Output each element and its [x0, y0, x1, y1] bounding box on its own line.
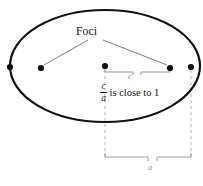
eccentricity-expression: c a is close to 1 — [100, 82, 159, 103]
ellipse-center-point — [102, 63, 108, 69]
eccentricity-text: is close to 1 — [110, 87, 160, 98]
left-focus-point — [38, 65, 44, 71]
foci-label: Foci — [76, 25, 97, 37]
leader-line-to-right-focus — [103, 40, 167, 65]
left-vertex-point — [7, 64, 13, 70]
leader-line-to-left-focus — [44, 40, 88, 65]
ellipse-eccentricity-figure: Foci c a c a is close to 1 — [0, 0, 203, 186]
c-measure-bracket — [105, 69, 170, 75]
c-length-label: c — [128, 72, 132, 81]
a-measure-bracket — [105, 153, 191, 161]
right-focus-point — [167, 65, 173, 71]
c-over-a-fraction: c a — [100, 82, 107, 103]
fraction-numerator: c — [100, 82, 106, 92]
right-vertex-point — [188, 64, 194, 70]
fraction-denominator: a — [100, 93, 107, 103]
a-length-label: a — [148, 162, 152, 172]
